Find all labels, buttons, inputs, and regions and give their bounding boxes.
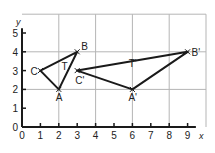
- vertex-label: A: [56, 92, 63, 103]
- coordinate-plot: 0123456789012345xyABCTA'B'C'T': [0, 0, 215, 153]
- triangle-label: T: [62, 61, 68, 72]
- vertex-label: B': [192, 47, 201, 58]
- y-axis-label: y: [15, 17, 21, 27]
- triangle-label: T': [129, 58, 137, 69]
- vertex-label: C: [30, 66, 37, 77]
- vertex-label: B: [81, 41, 88, 52]
- x-tick-label: 6: [130, 130, 136, 141]
- y-tick-label: 2: [12, 84, 18, 95]
- y-tick-label: 1: [12, 103, 18, 114]
- x-tick-label: 8: [166, 130, 172, 141]
- x-tick-label: 3: [74, 130, 80, 141]
- x-tick-label: 1: [38, 130, 44, 141]
- x-tick-label: 2: [56, 130, 62, 141]
- coordinate-diagram: 0123456789012345xyABCTA'B'C'T': [0, 0, 215, 153]
- x-tick-label: 9: [185, 130, 191, 141]
- x-axis-label: x: [198, 131, 204, 141]
- y-tick-label: 0: [12, 122, 18, 133]
- y-tick-label: 5: [12, 28, 18, 39]
- x-tick-label: 0: [19, 130, 25, 141]
- x-tick-label: 5: [111, 130, 117, 141]
- y-tick-label: 4: [12, 47, 18, 58]
- x-tick-label: 4: [93, 130, 99, 141]
- vertex-label: C': [75, 75, 84, 86]
- x-tick-label: 7: [148, 130, 154, 141]
- y-tick-label: 3: [12, 66, 18, 77]
- vertex-label: A': [128, 92, 137, 103]
